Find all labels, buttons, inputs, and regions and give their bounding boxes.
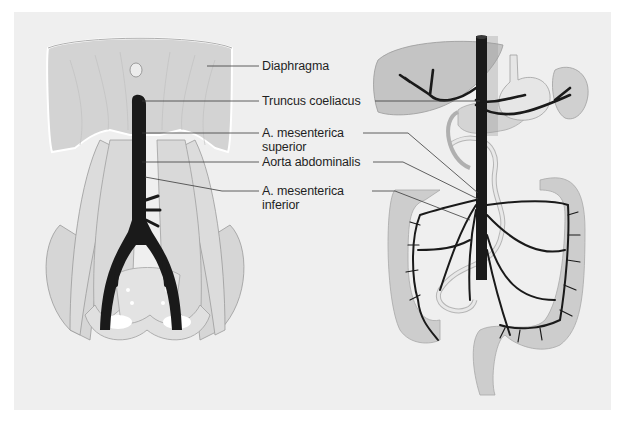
label-truncus-coeliacus: Truncus coeliacus [262,94,361,108]
label-text-line-2: inferior [262,198,344,212]
label-text: Aorta abdominalis [262,155,360,169]
label-text-line-1: A. mesenterica [262,184,344,198]
label-diaphragma: Diaphragma [262,59,329,73]
right-anatomy [363,35,588,395]
label-aorta-abdominalis: Aorta abdominalis [262,155,360,169]
label-text-line-1: A. mesenterica [262,126,344,140]
label-a-mesenterica-superior: A. mesenterica superior [262,126,344,154]
label-a-mesenterica-inferior: A. mesenterica inferior [262,184,344,212]
left-anatomy [46,38,259,340]
label-text: Diaphragma [262,59,329,73]
label-text: Truncus coeliacus [262,94,361,108]
label-text-line-2: superior [262,140,344,154]
